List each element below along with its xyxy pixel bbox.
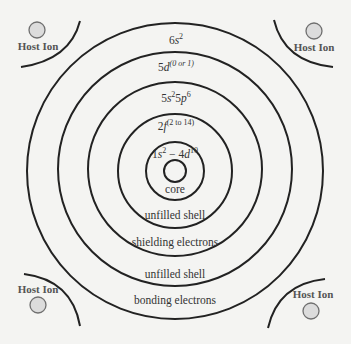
host-ion-boundary-arc [268, 279, 325, 328]
label-core: core [165, 183, 185, 195]
host-ion-bottom-left: Host Ion [18, 274, 80, 326]
host-ion-icon [306, 23, 322, 39]
host-ion-label: Host Ion [293, 288, 334, 300]
label-unfilled-shell-inner: unfilled shell [145, 209, 205, 221]
host-ion-top-left: Host Ion [18, 21, 80, 67]
ring-5s5p [88, 82, 262, 256]
label-1s2-4d10: 1s2 − 4d10 [152, 146, 198, 160]
ring-core [164, 160, 186, 182]
host-ion-label: Host Ion [18, 40, 59, 52]
label-6s2: 6s2 [169, 32, 183, 46]
label-shielding-electrons: shielding electrons [132, 236, 219, 249]
host-ion-top-right: Host Ion [274, 20, 334, 67]
label-2f: 2f(2 to 14) [158, 118, 195, 133]
host-ion-label: Host Ion [294, 41, 335, 53]
host-ion-bottom-right: Host Ion [268, 279, 333, 328]
label-bonding-electrons: bonding electrons [134, 294, 217, 307]
host-ion-label: Host Ion [18, 283, 59, 295]
label-5d: 5d(0 or 1) [158, 59, 194, 73]
host-ion-icon [303, 303, 319, 319]
host-ion-icon [29, 22, 45, 38]
host-ion-icon [30, 297, 46, 313]
label-5s2-5p6: 5s25p6 [161, 90, 191, 105]
label-unfilled-shell-outer: unfilled shell [145, 268, 205, 280]
shell-diagram: 6s2 5d(0 or 1) 5s25p6 2f(2 to 14) 1s2 − … [0, 0, 351, 344]
ring-5d [58, 52, 292, 286]
